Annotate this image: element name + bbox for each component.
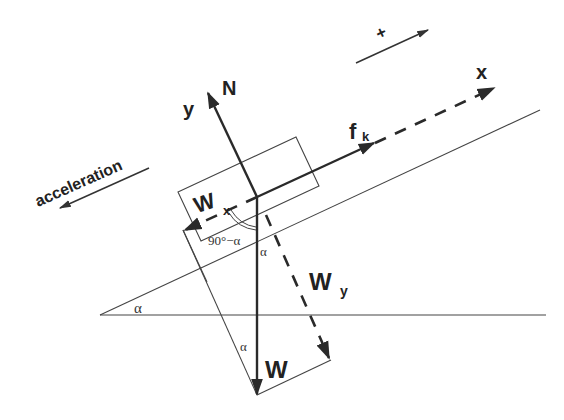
weight-y-label: W xyxy=(309,268,332,295)
weight-y-subscript: y xyxy=(340,283,348,299)
alpha-at-block-label: α xyxy=(260,244,267,259)
positive-direction-arrow xyxy=(356,30,428,63)
normal-force-label: N xyxy=(222,77,236,99)
complement-angle-arc-2 xyxy=(231,210,256,227)
x-axis-label: x xyxy=(476,61,487,83)
complement-angle-label: 90°−α xyxy=(208,233,241,248)
weight-x-subscript: x xyxy=(223,203,231,218)
weight-label: W xyxy=(265,356,288,383)
alpha-at-weight-label: α xyxy=(240,339,247,354)
normal-force-vector xyxy=(208,93,257,197)
positive-label: + xyxy=(373,22,390,43)
alpha-incline-label: α xyxy=(134,300,142,316)
x-axis-dashed xyxy=(375,88,494,143)
friction-vector xyxy=(257,143,374,197)
friction-label: f xyxy=(349,119,357,144)
acceleration-label: acceleration xyxy=(32,156,124,210)
friction-subscript: k xyxy=(362,129,370,144)
wx-bracket-line xyxy=(183,230,257,395)
incline-free-body-diagram: + acceleration x y N f k W x W y W 90°−α… xyxy=(0,0,564,420)
y-axis-label: y xyxy=(183,98,195,120)
weight-x-label: W xyxy=(191,188,219,218)
